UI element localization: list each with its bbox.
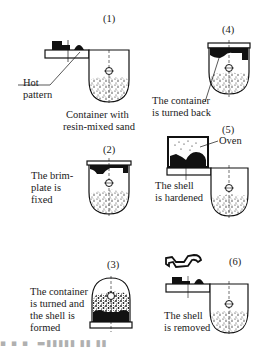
shell-icon [166,255,201,267]
hot-pattern-icon [45,40,89,62]
step-1-caption-line2: resin-mixed sand [63,121,135,133]
step-3-caption-line4: formed [30,322,60,334]
step-1-number: (1) [103,13,115,25]
footer-caption-cropped: ▪ ▪ ▪ ▬▮▮▮▮▮ ▮▮ ▮▮ [0,338,108,348]
step-3-caption-line2: is turned and [30,298,84,310]
step-3-number: (3) [107,259,119,271]
step-6-caption-line2: is removed [164,322,210,334]
oven-icon [168,137,208,167]
step-5-figure [167,137,248,220]
step-2-number: (2) [103,144,115,156]
step-3-caption-line1: The container [30,286,88,298]
step-6-number: (6) [229,256,241,268]
step-5-caption-line2: is hardened [155,192,203,204]
hot-pattern-label-line1: Hot [23,77,39,89]
step-4-number: (4) [222,24,234,36]
hot-pattern-label-line2: pattern [23,89,52,101]
step-4-caption-line1: The container [152,95,210,107]
step-3-figure [90,276,132,332]
step-5-caption-line1: The shell [155,180,194,192]
step-2-caption-line1: The brim- [31,170,73,182]
oven-label: Oven [219,135,242,147]
container-icon [89,50,129,105]
step-2-figure [87,158,131,218]
step-2-caption-line2: plate is [31,182,61,194]
step-4-caption-line2: is turned back [152,107,211,119]
step-1-caption-line1: Container with [66,109,129,121]
step-4-figure [205,40,250,102]
step-3-caption-line3: the shell is [30,310,75,322]
step-2-caption-line3: fixed [31,194,53,206]
step-6-caption-line1: The shell [164,310,203,322]
